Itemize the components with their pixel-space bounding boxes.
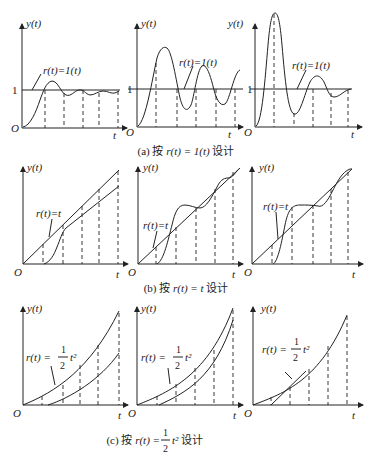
fraction-numerator: 1 (294, 336, 299, 347)
leader-line (32, 74, 41, 90)
fraction-denominator: 2 (293, 352, 298, 363)
caption-a: (a) 按 r(t) = 1(t) 设计 (138, 144, 235, 158)
input-label: r(t)=t (263, 200, 289, 213)
panel-b2: y(t) r(t)=t O t (128, 161, 243, 280)
input-label: r(t) = (26, 351, 51, 364)
output-response-curve (44, 186, 119, 264)
origin-label: O (13, 407, 21, 419)
x-axis-label: t (118, 409, 122, 421)
origin-label: O (11, 122, 19, 134)
caption-fraction-numerator: 1 (163, 427, 168, 438)
origin-label: O (244, 407, 252, 419)
input-label: r(t) = (141, 351, 166, 364)
x-axis-label: t (351, 128, 355, 140)
output-response-curve (273, 169, 352, 264)
fraction-numerator: 1 (61, 344, 66, 355)
panel-c3: y(t) r(t) = 1 2 t² O t (244, 302, 363, 421)
output-response-curve (23, 81, 119, 127)
x-axis-label: t (232, 268, 236, 280)
response-figure: y(t) r(t)=1(t) 1 O t y(t) r(t)=1(t) 1 O … (0, 0, 373, 457)
input-label: r(t)=t (36, 207, 62, 220)
input-label: r(t)=1(t) (43, 64, 81, 77)
input-label: r(t) = (262, 343, 287, 356)
output-response-curve (157, 169, 239, 264)
origin-label: O (14, 266, 22, 278)
input-label: r(t)=1(t) (179, 56, 217, 69)
origin-label: O (128, 407, 136, 419)
svg-text:t² 设计: t² 设计 (172, 434, 203, 446)
y-axis-label: y(t) (260, 302, 277, 315)
panel-c2: y(t) r(t) = 1 2 t² O t (128, 302, 243, 421)
level-label: 1 (12, 84, 18, 96)
fraction-denominator: 2 (175, 360, 180, 371)
panel-b3: y(t) r(t)=t O t (244, 161, 363, 280)
y-axis-label: y(t) (25, 17, 42, 30)
origin-label: O (126, 126, 134, 138)
y-axis-label: y(t) (258, 161, 275, 174)
power-term: t² (70, 351, 77, 363)
input-label: r(t)=1(t) (292, 59, 330, 72)
y-axis-label: y(t) (227, 17, 244, 30)
panel-a2: y(t) r(t)=1(t) 1 O t (126, 17, 243, 140)
x-axis-label: t (352, 409, 356, 421)
y-axis-label: y(t) (142, 161, 159, 174)
input-label: r(t)=t (143, 219, 169, 232)
caption-c: (c) 按 r(t) = 1 2 t² 设计 (106, 427, 203, 454)
level-label: 1 (127, 83, 133, 95)
panel-c1: y(t) r(t) = 1 2 t² O t (13, 302, 128, 421)
svg-text:(c) 按 r(t) =: (c) 按 r(t) = (106, 433, 160, 447)
x-axis-label: t (228, 128, 232, 140)
origin-label: O (128, 266, 136, 278)
power-term: t² (303, 343, 310, 355)
origin-label: O (244, 266, 252, 278)
panel-a3: y(t) r(t)=1(t) 1 O t (227, 13, 362, 140)
power-term: t² (185, 351, 192, 363)
level-label: 1 (247, 83, 253, 95)
output-response-curve (48, 353, 119, 405)
fraction-numerator: 1 (176, 344, 181, 355)
x-axis-label: t (113, 129, 117, 141)
panel-a1: y(t) r(t)=1(t) 1 O t (11, 17, 127, 141)
y-axis-label: y(t) (26, 161, 43, 174)
fraction-denominator: 2 (60, 360, 65, 371)
y-axis-label: y(t) (140, 17, 157, 30)
y-axis-label: y(t) (26, 302, 43, 315)
caption-b: (b) 按 r(t) = t 设计 (144, 281, 229, 295)
origin-label: O (244, 126, 252, 138)
x-axis-label: t (116, 268, 120, 280)
y-axis-label: y(t) (140, 302, 157, 315)
reference-input-curve (253, 315, 347, 405)
x-axis-label: t (233, 409, 237, 421)
caption-fraction-denominator: 2 (163, 443, 168, 454)
panel-b1: y(t) r(t)=t O t (14, 161, 128, 280)
x-axis-label: t (352, 268, 356, 280)
